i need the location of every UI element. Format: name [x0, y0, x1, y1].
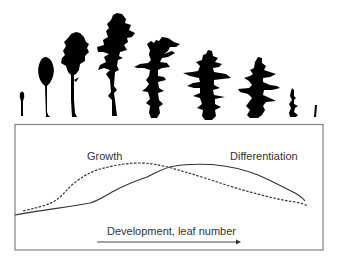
- leaf-4-icon: [97, 13, 135, 116]
- leaf-1-icon: [20, 92, 25, 117]
- leaf-9-icon: [314, 105, 317, 117]
- leaf-3-icon: [61, 32, 89, 117]
- leaf-series: [20, 13, 317, 120]
- leaf-7-icon: [238, 57, 280, 118]
- leaf-8-icon: [289, 88, 298, 117]
- leaf-2-icon: [38, 57, 54, 117]
- growth-label: Growth: [87, 150, 122, 162]
- leaf-development-figure: Growth Differentiation Development, leaf…: [0, 0, 337, 261]
- axis-label: Development, leaf number: [107, 225, 236, 237]
- leaf-6-icon: [183, 50, 231, 120]
- leaf-5-icon: [134, 37, 180, 118]
- differentiation-label: Differentiation: [230, 150, 298, 162]
